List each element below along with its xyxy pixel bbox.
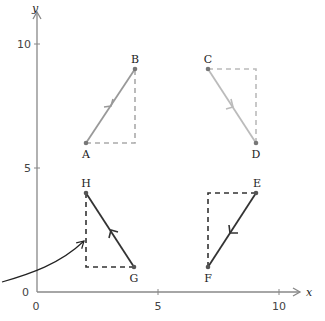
y-tick-label: 10 xyxy=(17,38,31,51)
label-h: H xyxy=(81,177,91,190)
x-axis-label: x xyxy=(306,286,313,299)
vector-cd: C D xyxy=(204,53,261,161)
y-tick-label: 0 xyxy=(22,286,29,299)
point-f xyxy=(206,265,211,270)
point-c xyxy=(206,67,211,72)
vector-line xyxy=(86,193,134,267)
y-tick-label: 5 xyxy=(24,162,31,175)
x-tick-label: 5 xyxy=(155,300,162,313)
point-h xyxy=(84,191,89,196)
x-tick-label: 10 xyxy=(272,300,286,313)
point-d xyxy=(254,141,259,146)
curved-pointer-arrow-icon xyxy=(2,241,84,282)
point-g xyxy=(132,265,137,270)
point-b xyxy=(133,67,138,72)
y-axis-label: y xyxy=(31,2,39,15)
label-f: F xyxy=(204,272,212,285)
axes: x y 0 5 10 0 5 10 xyxy=(17,2,313,313)
point-e xyxy=(254,191,259,196)
direction-arrow-icon xyxy=(104,99,113,107)
x-tick-label: 0 xyxy=(33,300,40,313)
label-d: D xyxy=(252,148,261,161)
label-a: A xyxy=(81,148,91,161)
vector-ef: E F xyxy=(204,177,261,285)
point-a xyxy=(84,141,89,146)
label-b: B xyxy=(131,53,139,66)
vector-line xyxy=(208,193,256,267)
vector-ab: A B xyxy=(81,53,139,161)
label-g: G xyxy=(130,272,139,285)
vector-gh: G H xyxy=(81,177,138,285)
vector-diagram: x y 0 5 10 0 5 10 A B C D xyxy=(0,0,325,321)
label-e: E xyxy=(253,177,261,190)
label-c: C xyxy=(204,53,212,66)
